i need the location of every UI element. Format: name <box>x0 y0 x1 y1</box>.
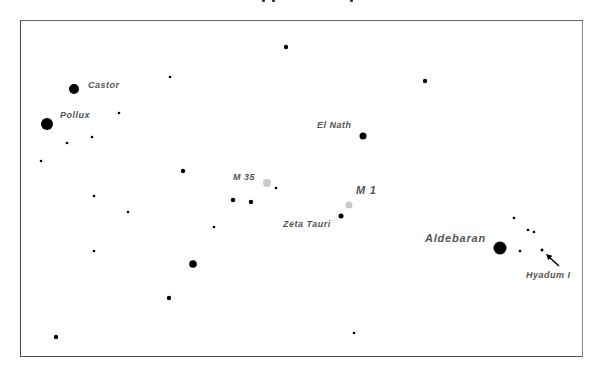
zeta-tauri-marker <box>339 214 344 219</box>
m-35-marker <box>263 179 271 187</box>
star-dot <box>231 198 235 202</box>
el-nath-marker <box>360 133 367 140</box>
pollux-label: Pollux <box>60 110 90 120</box>
m-35-label: M 35 <box>233 172 256 182</box>
star-dot <box>40 160 43 163</box>
star-dot <box>91 136 94 139</box>
star-chart: CastorPolluxEl NathM 35M 1Zeta TauriAlde… <box>0 0 602 376</box>
star-dot <box>519 250 522 253</box>
star-dot <box>189 260 197 268</box>
star-dot <box>66 142 69 145</box>
aldebaran-marker <box>494 242 507 255</box>
star-dot <box>169 76 172 79</box>
aldebaran-label: Aldebaran <box>424 232 486 244</box>
star-dot <box>93 250 96 253</box>
castor-label: Castor <box>88 80 120 90</box>
castor-marker <box>69 84 79 94</box>
star-dot <box>527 229 530 232</box>
hyadum-arrow <box>546 254 559 266</box>
star-dot <box>533 231 536 234</box>
star-dot <box>54 335 58 339</box>
zeta-tauri-label: Zeta Tauri <box>282 219 331 229</box>
star-dot <box>93 195 96 198</box>
el-nath-label: El Nath <box>317 120 352 130</box>
star-dot <box>423 79 427 83</box>
star-dot <box>249 200 253 204</box>
star-dot <box>127 211 130 214</box>
star-dot <box>513 217 516 220</box>
m-1-label: M 1 <box>356 184 377 196</box>
star-dot <box>167 296 171 300</box>
hyadum-i-label: Hyadum I <box>526 270 571 280</box>
star-dot <box>118 112 121 115</box>
m-1-marker <box>346 202 353 209</box>
star-dot <box>275 187 278 190</box>
arrow-shaft <box>549 257 559 266</box>
labeled-objects: CastorPolluxEl NathM 35M 1Zeta TauriAlde… <box>41 80 571 280</box>
star-dot <box>181 169 185 173</box>
hyadum-i-marker <box>541 249 544 252</box>
star-dot <box>353 332 356 335</box>
pollux-marker <box>41 118 53 130</box>
star-dot <box>213 226 216 229</box>
star-dot <box>284 45 288 49</box>
